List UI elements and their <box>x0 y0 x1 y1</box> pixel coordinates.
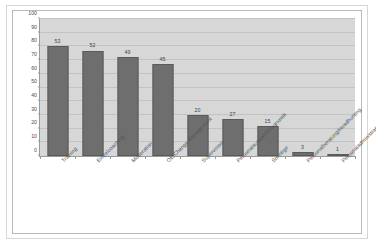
bar-slot: 27 <box>215 19 250 156</box>
bar-slot: 45 <box>145 19 180 156</box>
y-axis-tick-label: 90 <box>31 25 37 30</box>
x-axis-tick-mark <box>355 156 356 159</box>
bar[interactable] <box>152 64 173 156</box>
bar-value-label: 45 <box>160 57 166 62</box>
plot-region: 0102030405060708090100 5352494520271531 <box>39 19 355 157</box>
bar[interactable] <box>222 119 243 156</box>
x-axis-category-label: Supervision <box>201 160 205 164</box>
x-axis-tick-mark <box>75 156 76 159</box>
bar-value-label: 20 <box>195 108 201 113</box>
y-axis-tick-label: 70 <box>31 52 37 57</box>
bar-slot: 49 <box>110 19 145 156</box>
bar-value-label: 53 <box>55 39 61 44</box>
x-axis-labels: TrainingEinzelcoachingModerationOE/Chang… <box>39 160 354 230</box>
y-axis-tick-label: 50 <box>31 80 37 85</box>
x-axis-tick-mark <box>320 156 321 159</box>
y-axis-tick-label: 100 <box>28 11 37 16</box>
y-axis-tick-label: 60 <box>31 66 37 71</box>
bar-slot: 3 <box>285 19 320 156</box>
x-axis-category-label: Personaladministration <box>341 160 345 164</box>
x-axis-category-label: Training <box>61 160 65 164</box>
y-axis-tick-label: 0 <box>34 148 37 153</box>
x-axis-tick-mark <box>110 156 111 159</box>
x-axis-category-label: Personalberatung/Headhunting <box>306 160 310 164</box>
x-axis-category-label: Personalauswahl/Diagnostik <box>236 160 240 164</box>
x-axis-tick-mark <box>285 156 286 159</box>
x-axis-tick-mark <box>215 156 216 159</box>
y-axis-tick-label: 20 <box>31 121 37 126</box>
x-axis-category-label: Einzelcoaching <box>96 160 100 164</box>
bar-slot: 52 <box>75 19 110 156</box>
x-axis-tick-mark <box>250 156 251 159</box>
x-axis-category-label: OE/Change-Management <box>166 160 170 164</box>
bar-value-label: 3 <box>301 145 304 150</box>
bar-value-label: 49 <box>125 50 131 55</box>
y-axis-tick-label: 30 <box>31 107 37 112</box>
chart-figure: 0102030405060708090100 5352494520271531 … <box>6 5 368 239</box>
y-axis-tick-label: 80 <box>31 39 37 44</box>
y-axis-tick-label: 10 <box>31 135 37 140</box>
bar-slot: 53 <box>40 19 75 156</box>
x-axis-category-label: Sonstige <box>271 160 275 164</box>
chart-plot-frame: 0102030405060708090100 5352494520271531 … <box>12 10 362 234</box>
bar-value-label: 1 <box>336 147 339 152</box>
x-axis-tick-mark <box>40 156 41 159</box>
y-axis-tick-label: 40 <box>31 93 37 98</box>
x-axis-tick-mark <box>145 156 146 159</box>
bar[interactable] <box>82 51 103 156</box>
x-axis-category-label: Moderation <box>131 160 135 164</box>
bar-value-label: 52 <box>90 43 96 48</box>
bar-value-label: 27 <box>230 112 236 117</box>
bar[interactable] <box>47 46 68 156</box>
x-axis-tick-mark <box>180 156 181 159</box>
